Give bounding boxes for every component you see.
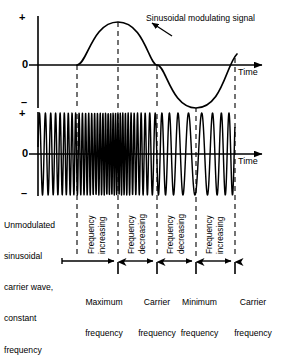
caption-line-2: sinusoidal xyxy=(4,251,76,261)
bottom-axis-minus-label: – xyxy=(21,188,27,199)
marker-label-carrier-2: Carrier frequency xyxy=(226,277,280,348)
marker-label-maximum: Maximum frequency xyxy=(75,277,133,348)
region-label-2-line-1: Frequency xyxy=(127,215,137,254)
bottom-axis-zero-label: 0 xyxy=(22,148,28,159)
marker-label-carrier-2-line-1: Carrier xyxy=(226,297,280,307)
marker-label-minimum-line-2: frequency xyxy=(173,328,226,338)
marker-label-minimum-line-1: Minimum xyxy=(173,297,226,307)
caption-line-5: frequency xyxy=(4,345,76,355)
region-label-2-line-2: decreasing xyxy=(138,214,148,254)
unmodulated-carrier-caption: Unmodulated sinusoidal carrier wave, con… xyxy=(4,199,76,359)
region-label-4-line-1: Frequency xyxy=(205,215,215,254)
modulating-signal-annotation: Sinusoidal modulating signal xyxy=(146,14,255,23)
region-label-3-line-1: Frequency xyxy=(166,215,176,254)
region-measurement-bar xyxy=(62,258,235,274)
top-plot-guide-lines xyxy=(77,22,235,112)
fm-carrier-waveform xyxy=(38,113,235,195)
caption-line-1: Unmodulated xyxy=(4,220,76,230)
marker-up-arrows xyxy=(118,262,235,274)
region-label-1-line-1: Frequency xyxy=(87,215,97,254)
top-plot-group xyxy=(29,16,262,112)
region-label-3-line-2: decreasing xyxy=(177,214,187,254)
marker-label-maximum-line-1: Maximum xyxy=(75,297,133,307)
region-label-1-line-2: increasing xyxy=(98,217,108,254)
marker-label-minimum: Minimum frequency xyxy=(173,277,226,348)
caption-line-4: constant xyxy=(4,313,76,323)
marker-label-carrier-2-line-2: frequency xyxy=(226,328,280,338)
bottom-time-axis-label: Time xyxy=(238,157,258,166)
marker-label-maximum-line-2: frequency xyxy=(75,328,133,338)
caption-line-3: carrier wave, xyxy=(4,282,76,292)
top-axis-zero-label: 0 xyxy=(22,59,28,70)
annotation-leader-arrow xyxy=(152,23,172,36)
top-time-axis-label: Time xyxy=(238,68,258,77)
region-label-4-line-2: increasing xyxy=(216,217,226,254)
top-axis-plus-label: + xyxy=(19,12,25,23)
bottom-axis-plus-label: + xyxy=(19,108,25,119)
